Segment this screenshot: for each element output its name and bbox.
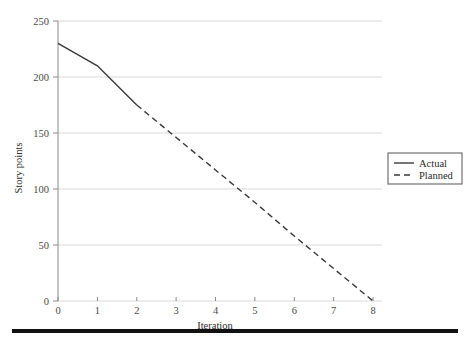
x-tick-label-1: 1 xyxy=(95,305,100,316)
x-tick-label-3: 3 xyxy=(173,305,178,316)
y-axis-ticks xyxy=(53,21,58,301)
x-tick-label-4: 4 xyxy=(213,305,219,316)
chart-legend: Actual Planned xyxy=(388,153,462,184)
burndown-chart-figure: . . . . . . . . 250 200 15 xyxy=(0,0,468,343)
gridlines xyxy=(58,21,382,301)
x-tick-label-2: 2 xyxy=(134,305,139,316)
x-tick-label-8: 8 xyxy=(370,305,375,316)
y-tick-label-200: 200 xyxy=(33,72,49,83)
x-tick-label-0: 0 xyxy=(55,305,60,316)
y-tick-label-250: 250 xyxy=(33,16,49,27)
x-axis-ticks xyxy=(58,297,373,301)
x-tick-label-6: 6 xyxy=(292,305,297,316)
x-tick-label-7: 7 xyxy=(331,305,336,316)
series-line-actual xyxy=(58,43,137,105)
chart-plot: 250 200 150 100 50 0 Story points 0 1 2 … xyxy=(0,0,468,343)
y-tick-label-100: 100 xyxy=(33,184,49,195)
series-line-planned xyxy=(137,105,373,301)
y-tick-label-150: 150 xyxy=(33,128,49,139)
x-tick-label-5: 5 xyxy=(252,305,257,316)
legend-label-actual: Actual xyxy=(419,158,447,169)
y-axis-title: Story points xyxy=(13,142,24,193)
legend-label-planned: Planned xyxy=(419,170,454,181)
y-tick-label-0: 0 xyxy=(44,296,49,307)
y-tick-label-50: 50 xyxy=(39,240,50,251)
bottom-horizontal-rule xyxy=(12,329,458,333)
